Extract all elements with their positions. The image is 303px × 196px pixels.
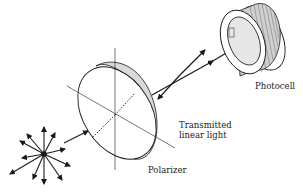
transmitted-label-line2: linear light	[179, 131, 227, 140]
polarizer	[62, 48, 175, 173]
unpolarized-light-source	[10, 127, 70, 184]
photocell	[212, 0, 295, 80]
polarizer-label: Polarizer	[148, 166, 187, 175]
photocell-label: Photocell	[255, 82, 295, 91]
transmitted-label-line1: Transmitted	[179, 121, 232, 130]
